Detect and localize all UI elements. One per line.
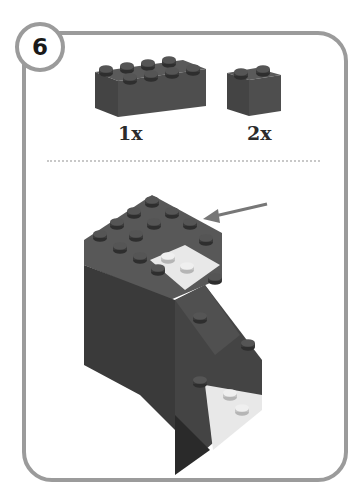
illustration xyxy=(0,0,363,490)
arrow-icon xyxy=(203,204,267,223)
assembled-model xyxy=(84,195,262,475)
brick-2x4-part xyxy=(95,56,206,117)
section-divider xyxy=(47,160,320,162)
part-quantity-2x4: 1x xyxy=(118,122,143,144)
brick-1x2-part xyxy=(227,65,281,116)
part-quantity-1x2: 2x xyxy=(247,122,272,144)
